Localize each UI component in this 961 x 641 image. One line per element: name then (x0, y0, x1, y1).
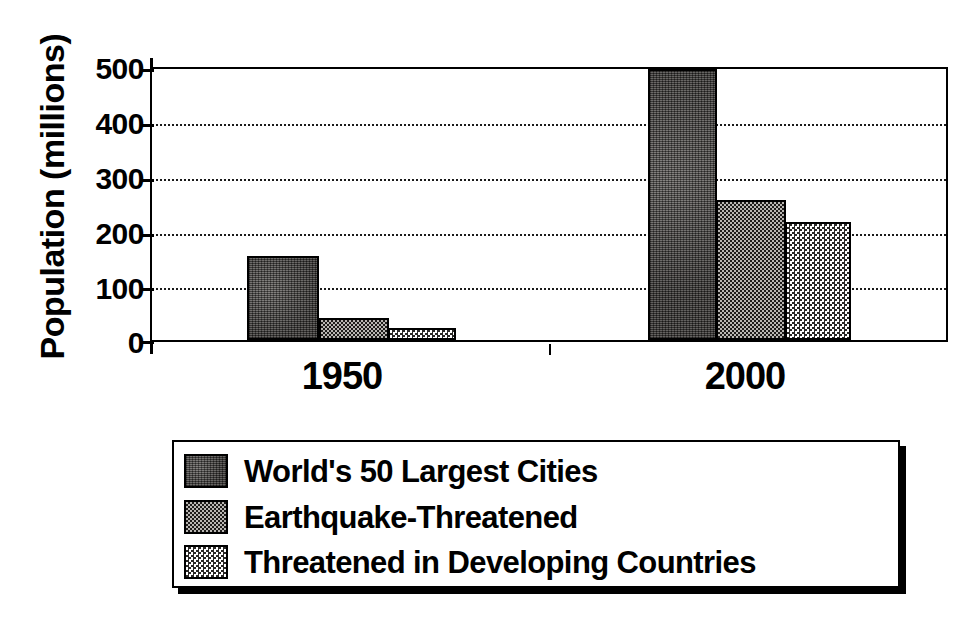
y-tickmark-0 (142, 341, 154, 344)
y-tick-label-0: 0 (58, 328, 144, 358)
plot-area (152, 67, 948, 342)
bar-2000-threatened-developing (785, 222, 851, 340)
y-tickmark-100 (142, 288, 154, 291)
legend-item-earthquake-threatened: Earthquake-Threatened (184, 494, 578, 540)
x-tick-label-2000: 2000 (665, 357, 825, 395)
bar-1950-earthquake-threatened (319, 318, 389, 340)
y-axis-tick-labels: 500 400 300 200 100 0 (58, 0, 144, 641)
y-tickmark-500 (142, 69, 154, 72)
legend-swatch-world-50-largest-cities (184, 454, 228, 488)
bar-chart-figure: Population (millions) 500 400 300 200 10… (0, 0, 961, 641)
legend-item-threatened-developing-countries: Threatened in Developing Countries (184, 539, 756, 585)
y-tickmark-300 (142, 179, 154, 182)
legend-swatch-earthquake-threatened (184, 500, 228, 534)
gridline-300 (152, 179, 946, 181)
y-tick-label-200: 200 (58, 219, 144, 249)
x-tick-label-1950: 1950 (262, 357, 422, 395)
bar-2000-world-50-largest-cities (648, 69, 717, 340)
chart-legend: World's 50 Largest Cities Earthquake-Thr… (172, 440, 900, 588)
bar-1950-world-50-largest-cities (247, 256, 319, 340)
y-tick-label-300: 300 (58, 164, 144, 194)
legend-swatch-threatened-developing-countries (184, 545, 228, 579)
legend-label-threatened-developing-countries: Threatened in Developing Countries (244, 547, 756, 578)
bar-1950-threatened-developing (388, 328, 456, 340)
legend-label-earthquake-threatened: Earthquake-Threatened (244, 502, 578, 533)
y-tickmark-200 (142, 234, 154, 237)
legend-label-world-50-largest-cities: World's 50 Largest Cities (244, 456, 598, 487)
legend-item-world-50-largest-cities: World's 50 Largest Cities (184, 448, 598, 494)
gridline-400 (152, 124, 946, 126)
y-tick-label-500: 500 (58, 54, 144, 84)
y-tick-label-400: 400 (58, 109, 144, 139)
bar-2000-earthquake-threatened (716, 200, 786, 340)
x-axis-minor-tickmark (549, 344, 551, 355)
y-tick-label-100: 100 (58, 274, 144, 304)
y-tickmark-400 (142, 124, 154, 127)
